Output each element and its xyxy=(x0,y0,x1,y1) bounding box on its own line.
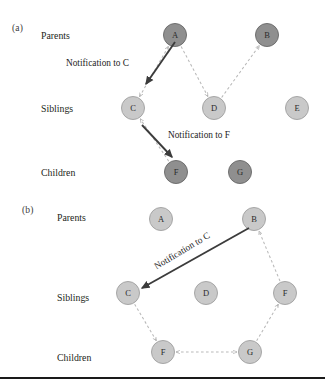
edge-layer xyxy=(135,46,280,352)
graph-edge xyxy=(259,231,280,281)
graph-node[interactable]: G xyxy=(229,161,252,184)
node-label: F xyxy=(283,288,288,298)
graph-edge xyxy=(140,119,169,161)
row-label-parents: Parents xyxy=(57,212,86,223)
node-label: A xyxy=(158,214,165,224)
node-label: E xyxy=(294,103,299,113)
node-label: G xyxy=(247,347,253,357)
notification-label: Notification to F xyxy=(168,130,230,140)
graph-node[interactable]: C xyxy=(117,282,140,305)
graph-node[interactable]: G xyxy=(239,341,262,364)
row-label-children: Children xyxy=(41,167,75,178)
node-label: F xyxy=(161,347,166,357)
row-label-children: Children xyxy=(57,352,91,363)
node-label: D xyxy=(203,288,209,298)
graph-edge xyxy=(135,304,157,341)
diagram-svg: ABCDEFGABCDFFG xyxy=(0,0,325,386)
node-label: A xyxy=(172,30,179,40)
node-label: B xyxy=(251,214,257,224)
graph-node[interactable]: E xyxy=(286,97,309,120)
graph-node[interactable]: D xyxy=(195,282,218,305)
node-label: D xyxy=(211,103,217,113)
graph-node[interactable]: F xyxy=(274,282,297,305)
node-layer: ABCDEFGABCDFFG xyxy=(117,24,309,364)
node-label: G xyxy=(237,167,243,177)
bottom-rule xyxy=(0,377,325,379)
notification-label: Notification to C xyxy=(66,58,129,68)
row-label-siblings: Siblings xyxy=(57,292,89,303)
graph-node[interactable]: F xyxy=(152,341,175,364)
panel-tag: (a) xyxy=(12,23,23,33)
graph-node[interactable]: A xyxy=(150,208,173,231)
graph-node[interactable]: D xyxy=(203,97,226,120)
graph-edge xyxy=(222,46,260,98)
graph-edge xyxy=(257,304,279,341)
graph-edge xyxy=(181,46,208,96)
graph-node[interactable]: F xyxy=(165,161,188,184)
graph-node[interactable]: B xyxy=(243,208,266,231)
panel-tag: (b) xyxy=(22,205,34,215)
row-label-parents: Parents xyxy=(41,30,70,41)
node-label: B xyxy=(264,30,270,40)
graph-node[interactable]: C xyxy=(122,97,145,120)
graph-node[interactable]: B xyxy=(256,24,279,47)
node-label: F xyxy=(174,167,179,177)
node-label: C xyxy=(125,288,131,298)
figure-canvas: ABCDEFGABCDFFG (a)ParentsSiblingsChildre… xyxy=(0,0,325,386)
row-label-siblings: Siblings xyxy=(41,103,73,114)
notification-arrow xyxy=(146,42,175,84)
node-label: C xyxy=(130,103,136,113)
